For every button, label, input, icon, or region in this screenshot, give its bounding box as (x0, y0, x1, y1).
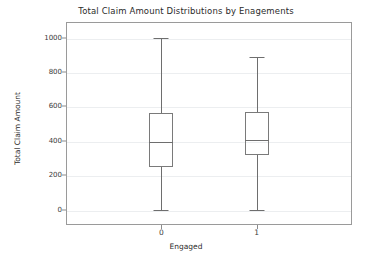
x-axis-label: Engaged (0, 242, 372, 251)
y-tick-mark (62, 140, 66, 141)
gridline (67, 142, 351, 143)
x-tick-mark (257, 225, 258, 229)
whisker-upper (161, 38, 162, 114)
y-tick-mark (62, 71, 66, 72)
y-tick-label: 800 (49, 68, 62, 76)
whisker-upper (257, 57, 258, 112)
y-tick-mark (62, 106, 66, 107)
boxplot-figure: Total Claim Amount Distributions by Enag… (0, 0, 372, 264)
y-axis-label: Total Claim Amount (13, 49, 22, 209)
gridline (67, 39, 351, 40)
y-tick-label: 600 (49, 102, 62, 110)
median-line (149, 142, 173, 143)
whisker-lower (161, 167, 162, 210)
gridline (67, 176, 351, 177)
median-line (245, 140, 269, 141)
plot-area (66, 22, 352, 225)
whisker-lower (257, 155, 258, 210)
cap-lower (249, 210, 264, 211)
cap-upper (154, 38, 169, 39)
cap-upper (249, 57, 264, 58)
y-tick-mark (62, 175, 66, 176)
cap-lower (154, 210, 169, 211)
y-tick-mark (62, 209, 66, 210)
gridline (67, 107, 351, 108)
y-tick-label: 200 (49, 171, 62, 179)
plot-inner (67, 23, 351, 224)
x-tick-label: 1 (254, 228, 259, 237)
x-tick-label: 0 (159, 228, 164, 237)
box-iqr (245, 112, 269, 154)
gridline (67, 211, 351, 212)
chart-title: Total Claim Amount Distributions by Enag… (0, 6, 372, 16)
box-iqr (149, 113, 173, 166)
x-tick-mark (161, 225, 162, 229)
y-tick-mark (62, 37, 66, 38)
gridline (67, 73, 351, 74)
y-tick-label: 1000 (44, 34, 62, 42)
y-tick-label: 400 (49, 137, 62, 145)
